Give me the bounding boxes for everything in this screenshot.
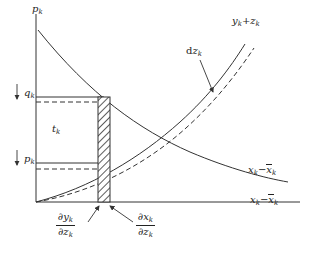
p-level-label: pk	[24, 154, 35, 166]
figure-root: pk xk−xk yk+zk xk−xk dzk qk tk pk ∂yk ∂z…	[0, 0, 319, 255]
y-axis-label: pk	[32, 4, 43, 16]
rising-dashed-curve	[36, 48, 254, 202]
dx-dz-pointer-arrow	[110, 206, 133, 222]
dy-dz-pointer-arrow	[88, 206, 99, 222]
hatched-band	[98, 97, 110, 202]
dz-annotation-label: dzk	[186, 46, 202, 58]
rising-solid-curve	[36, 44, 245, 202]
x-axis-label: xk−xk	[250, 194, 278, 207]
q-level-label: qk	[24, 88, 35, 100]
diagram-canvas	[0, 0, 319, 255]
dx-dz-fraction: ∂xk ∂zk	[136, 212, 155, 240]
t-block-label: tk	[52, 124, 60, 136]
falling-curve-label: xk−xk	[248, 164, 276, 177]
rising-curve-label: yk+zk	[232, 16, 260, 28]
dy-dz-fraction: ∂yk ∂zk	[56, 212, 75, 240]
dz-pointer-arrow	[200, 60, 213, 92]
